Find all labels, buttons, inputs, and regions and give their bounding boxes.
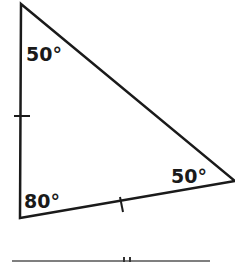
- triangle-diagram: 50° 80° 50°: [0, 0, 235, 262]
- angle-label-bottom-left: 80°: [24, 190, 60, 212]
- angle-label-right: 50°: [171, 165, 207, 187]
- angle-label-top: 50°: [26, 43, 62, 65]
